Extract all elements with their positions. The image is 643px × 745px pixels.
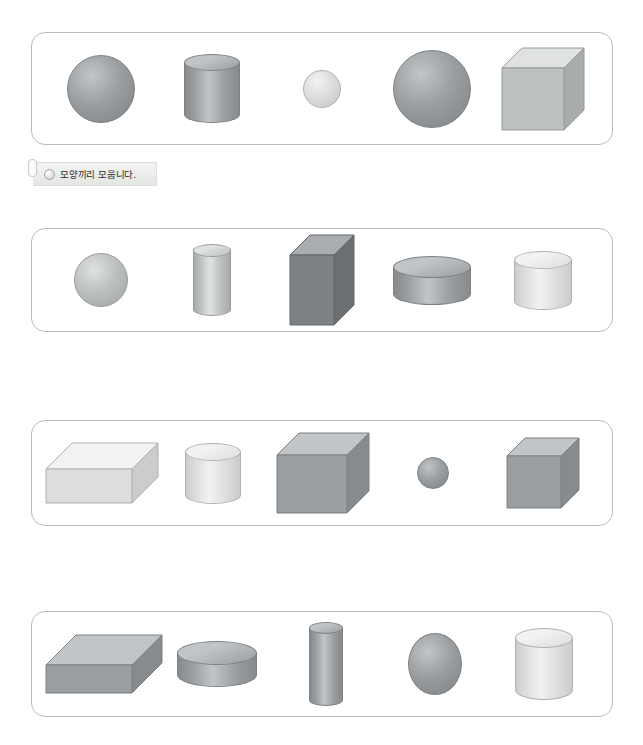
shape-cell: 구 <box>377 33 487 144</box>
cylinder-top-ellipse <box>185 443 241 461</box>
circle-bullet-icon <box>44 169 55 180</box>
cylinder-body <box>309 628 343 706</box>
cylinder-body <box>193 250 231 316</box>
shape-cell: 정육면체 <box>268 421 378 525</box>
shape-group-box[interactable]: 직육면체납작한 원기둥긴 원기둥구원기둥 <box>31 611 613 717</box>
shape-sphere[interactable] <box>303 70 341 108</box>
cylinder-top-ellipse <box>515 628 573 648</box>
shape-cube[interactable] <box>507 438 579 508</box>
shape-cell: 정육면체 <box>488 33 598 144</box>
cylinder-top-ellipse <box>514 251 572 269</box>
shape-cell: 구 <box>267 33 377 144</box>
shape-group-box[interactable]: 직육면체원기둥정육면체구정육면체 <box>31 420 613 526</box>
shape-row: 구원기둥직육면체납작한 원기둥원기둥 <box>32 229 612 331</box>
shape-cell: 원기둥 <box>156 33 266 144</box>
shape-cell: 납작한 원기둥 <box>162 612 271 716</box>
cylinder-top-ellipse <box>393 256 471 278</box>
instruction-label-tab[interactable]: 모양끼리 모웁니다. <box>33 162 157 186</box>
box-front-face <box>507 456 561 508</box>
shape-cylinder[interactable] <box>177 641 257 687</box>
box-front-face <box>502 68 564 130</box>
shape-cube[interactable] <box>502 48 584 130</box>
shape-cell: 직육면체 <box>46 421 158 525</box>
shape-group-box[interactable]: 구원기둥구구정육면체 <box>31 32 613 145</box>
shape-group-box[interactable]: 구원기둥직육면체납작한 원기둥원기둥 <box>31 228 613 332</box>
shape-cylinder[interactable] <box>184 54 240 123</box>
shape-row: 직육면체납작한 원기둥긴 원기둥구원기둥 <box>32 612 612 716</box>
cylinder-top-ellipse <box>193 244 231 257</box>
box-front-face <box>277 455 347 513</box>
shape-cell: 구 <box>46 229 156 331</box>
cylinder-top-ellipse <box>177 641 257 665</box>
cylinder-top-ellipse <box>309 622 343 634</box>
shape-cell: 긴 원기둥 <box>271 612 380 716</box>
shape-sphere[interactable] <box>74 253 128 307</box>
shape-cell: 직육면체 <box>46 612 162 716</box>
box-front-face <box>290 255 334 325</box>
shape-slab[interactable] <box>46 443 158 503</box>
shape-cuboid[interactable] <box>290 235 354 325</box>
shape-row: 직육면체원기둥정육면체구정육면체 <box>32 421 612 525</box>
shape-cell: 원기둥 <box>158 421 268 525</box>
shape-cell: 원기둥 <box>489 612 598 716</box>
shape-cylinder[interactable] <box>514 251 572 310</box>
shape-cell: 원기둥 <box>488 229 598 331</box>
shape-cylinder[interactable] <box>185 443 241 504</box>
shape-cylinder[interactable] <box>193 244 231 317</box>
shape-cell: 정육면체 <box>488 421 598 525</box>
shape-cylinder[interactable] <box>309 622 343 706</box>
shape-cell: 원기둥 <box>156 229 266 331</box>
instruction-label-text: 모양끼리 모웁니다. <box>60 167 136 181</box>
shape-row: 구원기둥구구정육면체 <box>32 33 612 144</box>
shape-sphere[interactable] <box>67 55 135 123</box>
shape-cell: 구 <box>46 33 156 144</box>
shape-sphere[interactable] <box>417 457 449 489</box>
shape-cell: 구 <box>380 612 489 716</box>
shape-cylinder[interactable] <box>393 256 471 305</box>
box-front-face <box>46 665 132 693</box>
shape-slab[interactable] <box>46 635 162 693</box>
cut-off-header-text <box>0 0 643 9</box>
shape-cube[interactable] <box>277 433 369 513</box>
paperclip-icon <box>28 159 37 177</box>
cylinder-body <box>184 63 240 123</box>
shape-cell: 직육면체 <box>267 229 377 331</box>
shape-sphere[interactable] <box>408 633 462 695</box>
worksheet-page: 구원기둥구구정육면체구원기둥직육면체납작한 원기둥원기둥직육면체원기둥정육면체구… <box>0 0 643 745</box>
shape-cell: 납작한 원기둥 <box>377 229 487 331</box>
shape-cell: 구 <box>378 421 488 525</box>
shape-cylinder[interactable] <box>515 628 573 700</box>
box-front-face <box>46 469 132 503</box>
shape-sphere[interactable] <box>393 50 471 128</box>
